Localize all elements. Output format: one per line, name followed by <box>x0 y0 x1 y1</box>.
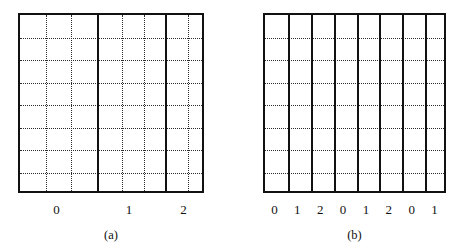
panel-b-column-6 <box>402 15 425 191</box>
panel-b <box>263 13 446 193</box>
panel-b-column-4 <box>357 15 380 191</box>
panel-a-column-1-subdivision-2 <box>144 15 145 191</box>
figure-root: 012(a)01201201(b) <box>0 0 461 247</box>
panel-a-caption: (a) <box>81 228 141 243</box>
panel-b-caption: (b) <box>325 228 385 243</box>
panel-b-frame <box>263 13 446 193</box>
panel-b-column-7 <box>425 15 448 191</box>
panel-b-column-5 <box>379 15 402 191</box>
panel-a-tick-label-0: 0 <box>37 202 77 218</box>
panel-b-tick-label-7: 1 <box>415 202 455 218</box>
panel-a-tick-label-1: 1 <box>109 202 149 218</box>
panel-a-tick-label-2: 2 <box>164 202 204 218</box>
panel-a-column-0-subdivision-1 <box>46 15 47 191</box>
panel-a-column-1-subdivision-1 <box>122 15 123 191</box>
panel-b-column-3 <box>334 15 357 191</box>
panel-a-column-2-subdivision-1 <box>188 15 189 191</box>
panel-b-column-1 <box>288 15 311 191</box>
panel-b-column-2 <box>311 15 334 191</box>
panel-a-column-2 <box>165 15 206 191</box>
panel-a-column-0 <box>20 15 97 191</box>
panel-a-column-1 <box>97 15 165 191</box>
panel-b-column-0 <box>265 15 288 191</box>
panel-a <box>18 13 204 193</box>
panel-a-column-0-subdivision-2 <box>71 15 72 191</box>
panel-a-frame <box>18 13 204 193</box>
